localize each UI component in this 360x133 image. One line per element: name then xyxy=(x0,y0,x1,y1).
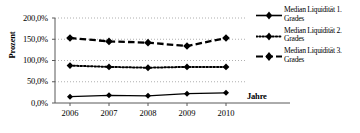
legend-swatch-solid-diamond-icon xyxy=(256,7,282,18)
liquidity-line-chart: Prozent Jahre 200,0% 150,0% 100,0% 50,0%… xyxy=(0,0,360,133)
legend-swatch-dotted-diamond-icon xyxy=(256,28,282,39)
legend-item-series-3: Median Liquidität 3.Grades xyxy=(256,47,360,64)
legend-swatch-dashed-diamond-icon xyxy=(256,48,282,59)
legend-label-series-2: Median Liquidität 2.Grades xyxy=(282,27,342,44)
legend-label-series-1: Median Liquidität 1.Grades xyxy=(282,6,342,23)
chart-legend: Median Liquidität 1.Grades Median Liquid… xyxy=(256,6,360,68)
legend-label-series-3: Median Liquidität 3.Grades xyxy=(282,47,342,64)
legend-label-series-2-line2: Grades xyxy=(284,34,304,43)
legend-label-series-3-line2: Grades xyxy=(284,55,304,64)
legend-item-series-2: Median Liquidität 2.Grades xyxy=(256,27,360,44)
legend-label-series-1-line2: Grades xyxy=(284,14,304,23)
legend-item-series-1: Median Liquidität 1.Grades xyxy=(256,6,360,23)
